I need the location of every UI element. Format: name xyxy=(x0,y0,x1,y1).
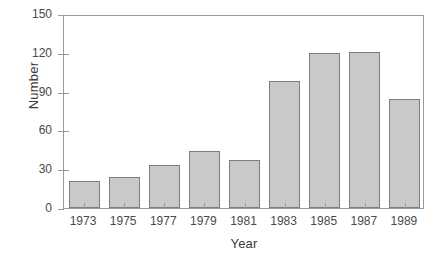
bar xyxy=(229,160,260,208)
y-axis-tick xyxy=(58,209,64,210)
y-axis-tick-label: 150 xyxy=(18,7,52,21)
x-axis-tick xyxy=(245,203,246,208)
x-axis-tick xyxy=(285,203,286,208)
bar-chart-figure: Number Year 0306090120150197319751977197… xyxy=(0,0,445,263)
bar xyxy=(269,81,300,208)
x-axis-tick xyxy=(204,203,205,208)
y-axis-tick-label: 120 xyxy=(18,46,52,60)
x-axis-tick xyxy=(325,203,326,208)
y-axis-tick-label: 30 xyxy=(18,162,52,176)
y-axis-tick-label: 60 xyxy=(18,123,52,137)
y-axis-tick-inner xyxy=(64,54,69,55)
x-axis-tick xyxy=(84,203,85,208)
bar xyxy=(349,52,380,208)
bar xyxy=(389,99,420,208)
y-axis-tick xyxy=(58,15,64,16)
plot-frame xyxy=(63,15,424,209)
bar xyxy=(189,151,220,208)
x-axis-tick xyxy=(365,203,366,208)
bar xyxy=(309,53,340,208)
y-axis-tick-inner xyxy=(64,131,69,132)
plot-area xyxy=(64,16,423,208)
y-axis-tick-label: 90 xyxy=(18,85,52,99)
bar xyxy=(149,165,180,208)
x-axis-tick xyxy=(405,203,406,208)
x-axis-tick xyxy=(164,203,165,208)
y-axis-tick-inner xyxy=(64,93,69,94)
x-axis-tick xyxy=(124,203,125,208)
x-axis-tick-label: 1989 xyxy=(374,214,434,228)
y-axis-tick-inner xyxy=(64,170,69,171)
x-axis-title: Year xyxy=(63,236,425,251)
y-axis-tick-label: 0 xyxy=(18,201,52,215)
